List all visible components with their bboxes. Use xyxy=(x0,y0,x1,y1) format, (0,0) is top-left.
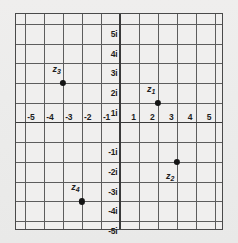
x-axis-tick-label: -5 xyxy=(27,112,34,122)
y-axis-tick-label: -5i xyxy=(108,226,117,236)
data-point-z3 xyxy=(60,80,66,86)
y-axis-tick-label: -4i xyxy=(108,206,117,216)
x-axis-tick-label: 3 xyxy=(169,112,174,122)
x-axis-tick-label: -3 xyxy=(65,112,72,122)
x-axis-tick-label: 1 xyxy=(131,112,136,122)
y-axis-tick-label: 4i xyxy=(111,49,118,59)
data-point-z2 xyxy=(174,159,180,165)
y-axis-tick-label: 2i xyxy=(111,88,118,98)
data-point-z1 xyxy=(155,100,161,106)
data-point-label-z2: z2 xyxy=(166,171,174,182)
x-axis-tick-label: -1 xyxy=(103,112,110,122)
y-axis-tick-label: -3i xyxy=(108,187,117,197)
x-axis-tick-label: 2 xyxy=(150,112,155,122)
y-axis-tick-label: -1i xyxy=(108,147,117,157)
y-axis-tick-label: 3i xyxy=(111,68,118,78)
x-axis-tick-label: 5 xyxy=(207,112,212,122)
figure-canvas: -5-4-3-2-1123455i4i3i2i1i-1i-2i-3i-4i-5i… xyxy=(0,0,238,243)
y-axis-tick-label: 5i xyxy=(111,29,118,39)
data-point-label-z3: z3 xyxy=(52,63,60,74)
complex-plane-plot: -5-4-3-2-1123455i4i3i2i1i-1i-2i-3i-4i-5i… xyxy=(15,13,223,230)
data-point-z4 xyxy=(79,198,85,204)
y-axis-tick-label: 1i xyxy=(111,108,118,118)
y-axis-tick-label: -2i xyxy=(108,167,117,177)
x-axis-tick-label: -2 xyxy=(84,112,91,122)
data-point-label-z4: z4 xyxy=(71,182,79,193)
x-axis-tick-label: -4 xyxy=(46,112,53,122)
data-point-label-z1: z1 xyxy=(147,83,155,94)
real-axis xyxy=(16,122,222,124)
x-axis-tick-label: 4 xyxy=(188,112,193,122)
